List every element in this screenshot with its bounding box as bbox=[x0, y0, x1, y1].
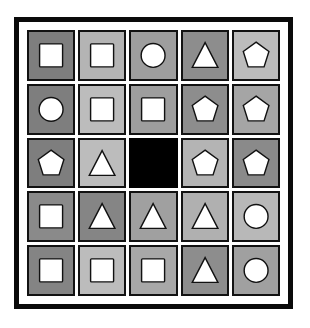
matrix-cell-r1-c1[interactable] bbox=[27, 30, 75, 81]
triangle-icon bbox=[183, 193, 227, 240]
matrix-cell-r3-c2[interactable] bbox=[78, 138, 126, 189]
triangle-icon bbox=[131, 193, 175, 240]
pentagon-icon bbox=[29, 140, 73, 187]
matrix-cell-r5-c5[interactable] bbox=[232, 245, 280, 296]
square-icon bbox=[29, 247, 73, 294]
matrix-cell-r1-c2[interactable] bbox=[78, 30, 126, 81]
circle-icon bbox=[234, 247, 278, 294]
puzzle-stage bbox=[0, 0, 310, 328]
square-icon bbox=[131, 247, 175, 294]
circle-icon bbox=[29, 86, 73, 133]
matrix-cell-r5-c2[interactable] bbox=[78, 245, 126, 296]
matrix-cell-r2-c5[interactable] bbox=[232, 84, 280, 135]
matrix-cell-r5-c4[interactable] bbox=[181, 245, 229, 296]
matrix-cell-r2-c2[interactable] bbox=[78, 84, 126, 135]
matrix-cell-r1-c4[interactable] bbox=[181, 30, 229, 81]
square-icon bbox=[80, 86, 124, 133]
matrix-cell-r4-c4[interactable] bbox=[181, 191, 229, 242]
circle-icon bbox=[234, 193, 278, 240]
matrix-cell-missing[interactable] bbox=[129, 138, 177, 189]
triangle-icon bbox=[183, 247, 227, 294]
square-icon bbox=[80, 32, 124, 79]
matrix-cell-r3-c5[interactable] bbox=[232, 138, 280, 189]
square-icon bbox=[29, 32, 73, 79]
matrix-cell-r4-c5[interactable] bbox=[232, 191, 280, 242]
matrix-cell-r2-c4[interactable] bbox=[181, 84, 229, 135]
matrix-cell-r1-c3[interactable] bbox=[129, 30, 177, 81]
matrix-cell-r2-c3[interactable] bbox=[129, 84, 177, 135]
pentagon-icon bbox=[183, 140, 227, 187]
circle-icon bbox=[131, 32, 175, 79]
square-icon bbox=[131, 86, 175, 133]
matrix-cell-r4-c2[interactable] bbox=[78, 191, 126, 242]
matrix-cell-r5-c3[interactable] bbox=[129, 245, 177, 296]
pentagon-icon bbox=[234, 86, 278, 133]
triangle-icon bbox=[80, 193, 124, 240]
matrix-cell-r3-c1[interactable] bbox=[27, 138, 75, 189]
triangle-icon bbox=[80, 140, 124, 187]
matrix-grid bbox=[27, 30, 280, 296]
pentagon-icon bbox=[234, 140, 278, 187]
puzzle-outer-frame bbox=[14, 17, 293, 309]
matrix-cell-r2-c1[interactable] bbox=[27, 84, 75, 135]
triangle-icon bbox=[183, 32, 227, 79]
matrix-cell-r4-c3[interactable] bbox=[129, 191, 177, 242]
matrix-cell-r4-c1[interactable] bbox=[27, 191, 75, 242]
matrix-cell-r5-c1[interactable] bbox=[27, 245, 75, 296]
matrix-cell-r1-c5[interactable] bbox=[232, 30, 280, 81]
matrix-cell-r3-c4[interactable] bbox=[181, 138, 229, 189]
square-icon bbox=[29, 193, 73, 240]
square-icon bbox=[80, 247, 124, 294]
pentagon-icon bbox=[234, 32, 278, 79]
pentagon-icon bbox=[183, 86, 227, 133]
